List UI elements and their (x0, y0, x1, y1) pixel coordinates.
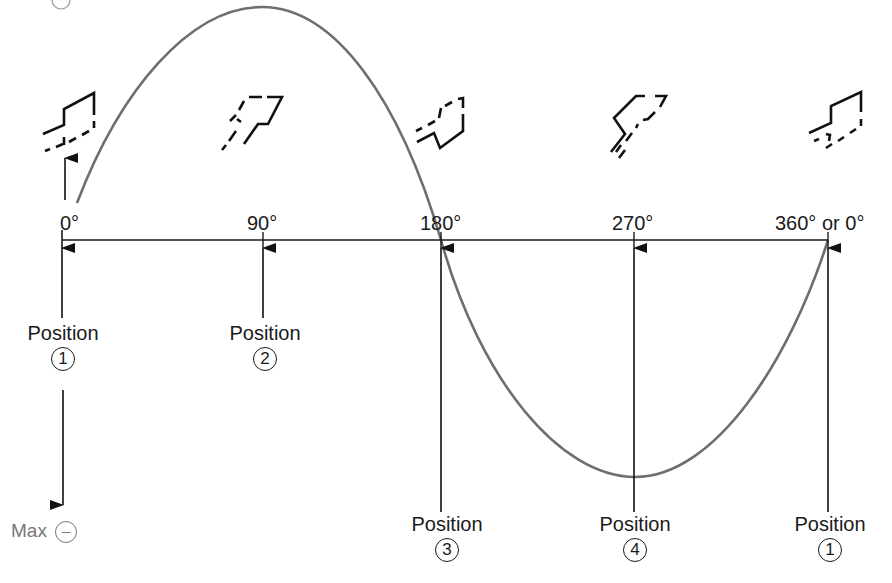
position-text: Position (397, 513, 497, 536)
axis-label-90: 90° (247, 212, 277, 235)
position-label-1: Position 1 (13, 322, 113, 371)
position-number-badge: 2 (253, 347, 277, 371)
max-text: Max (11, 520, 47, 541)
position-number-badge: 3 (435, 538, 459, 562)
position-text: Position (215, 322, 315, 345)
axis-label-360: 360° or 0° (775, 212, 864, 235)
sine-diagram (0, 0, 892, 583)
coil-90deg-icon (222, 97, 282, 150)
axis-label-0: 0° (60, 212, 79, 235)
cutoff-circle-icon (52, 0, 70, 9)
coil-0deg-icon (43, 93, 94, 151)
coil-270deg-icon (611, 96, 666, 158)
position-text: Position (585, 513, 685, 536)
position-number-badge: 1 (51, 347, 75, 371)
minus-circle-icon: – (55, 521, 77, 543)
position-number-badge: 1 (818, 538, 842, 562)
axis-label-180: 180° (420, 212, 461, 235)
max-negative-label: Max – (11, 520, 77, 543)
position-label-3: Position 3 (397, 513, 497, 562)
axis-label-270: 270° (612, 212, 653, 235)
position-label-4: Position 4 (585, 513, 685, 562)
position-text: Position (780, 513, 880, 536)
coil-180deg-icon (416, 98, 463, 148)
position-number-badge: 4 (623, 538, 647, 562)
position-label-2: Position 2 (215, 322, 315, 371)
position-label-1-end: Position 1 (780, 513, 880, 562)
position-text: Position (13, 322, 113, 345)
coil-360deg-icon (809, 92, 861, 148)
sine-curve (77, 7, 828, 477)
